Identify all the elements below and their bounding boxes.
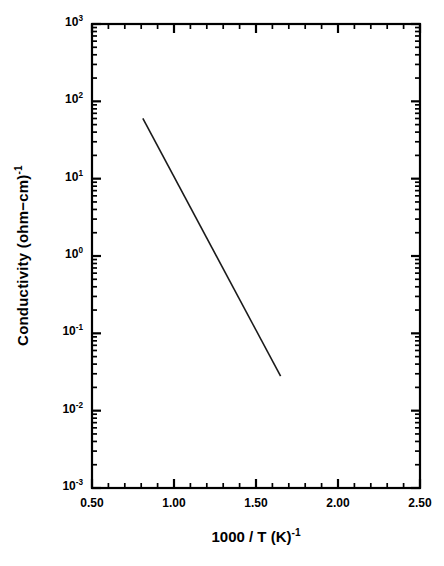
y-tick-label: 100 [65, 247, 83, 261]
chart-figure: Conductivity (ohm−cm)-1 1000 / T (K)-1 1… [0, 0, 444, 566]
x-axis-title: 1000 / T (K)-1 [92, 528, 420, 546]
plot-frame [92, 24, 420, 488]
y-tick-label: 101 [65, 170, 83, 184]
data-series [143, 118, 281, 376]
axis-ticks [92, 24, 420, 488]
axes-frame [92, 24, 420, 488]
y-tick-label: 10-2 [62, 402, 83, 416]
y-tick-label: 103 [65, 15, 83, 29]
x-tick-label: 2.00 [314, 496, 362, 510]
x-axis-title-text: 1000 / T (K) [211, 528, 291, 545]
x-tick-label: 1.00 [150, 496, 198, 510]
y-tick-label: 102 [65, 92, 83, 106]
x-tick-label: 0.50 [68, 496, 116, 510]
x-axis-title-exponent: -1 [291, 527, 300, 538]
x-tick-label: 2.50 [396, 496, 444, 510]
x-tick-label: 1.50 [232, 496, 280, 510]
y-tick-label: 10-3 [62, 479, 83, 493]
series-line-0 [143, 118, 281, 376]
y-tick-label: 10-1 [62, 324, 83, 338]
